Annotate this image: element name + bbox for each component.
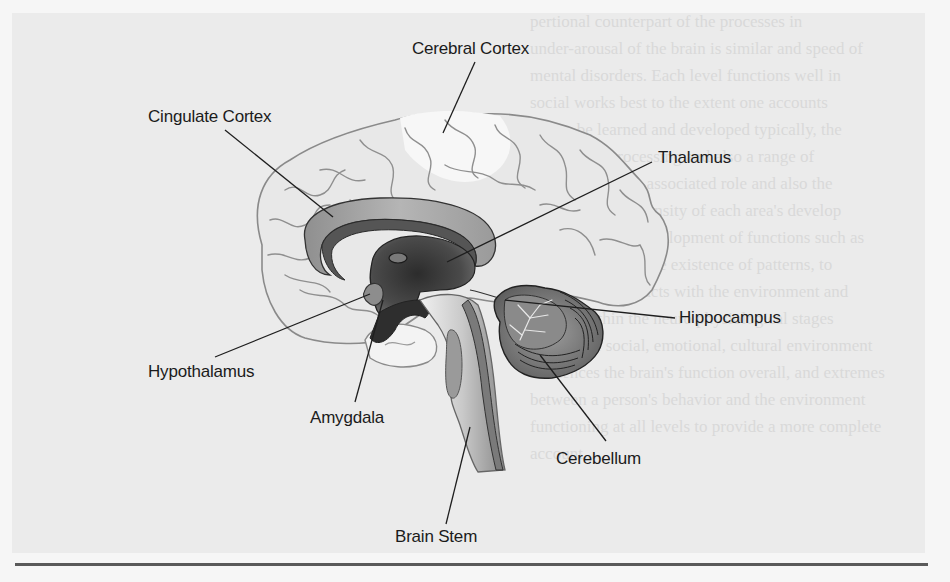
- label-hypothalamus: Hypothalamus: [148, 362, 254, 382]
- label-thalamus: Thalamus: [658, 148, 731, 168]
- label-brain-stem: Brain Stem: [395, 527, 477, 547]
- horizontal-rule: [15, 563, 928, 566]
- brain-diagram: [0, 0, 950, 582]
- label-cingulate-cortex: Cingulate Cortex: [148, 107, 271, 127]
- label-amygdala: Amygdala: [310, 408, 384, 428]
- label-cerebral-cortex: Cerebral Cortex: [412, 39, 529, 59]
- label-hippocampus: Hippocampus: [679, 308, 781, 328]
- brain-stem-structure: [420, 290, 505, 472]
- leader-brain-stem: [446, 427, 470, 524]
- label-cerebellum: Cerebellum: [556, 449, 641, 469]
